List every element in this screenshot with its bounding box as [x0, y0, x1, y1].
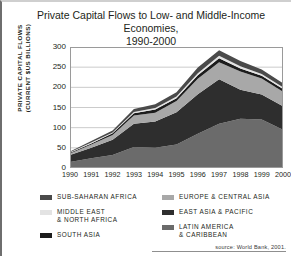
x-axis-tick-1998: 1998	[232, 170, 248, 179]
y-axis-title-line-2: (CURRENT $US BILLIONS)	[24, 10, 32, 126]
legend-item-label: MIDDLE EAST & NORTH AFRICA	[57, 208, 118, 224]
x-axis-tick-1993: 1993	[126, 170, 142, 179]
x-axis-tick-1996: 1996	[190, 170, 206, 179]
legend-column-left: SUB-SAHARAN AFRICAMIDDLE EAST & NORTH AF…	[40, 193, 150, 246]
legend-swatch-icon	[162, 195, 174, 200]
x-axis-tick-1995: 1995	[169, 170, 185, 179]
legend-item[interactable]: EAST ASIA & PACIFIC	[162, 208, 287, 216]
legend-swatch-icon	[40, 195, 52, 200]
y-axis-tick-150: 150	[42, 108, 66, 117]
y-axis-tick-labels: 300250200150100500	[40, 47, 66, 168]
y-axis-tick-300: 300	[42, 47, 66, 56]
x-axis-tick-1991: 1991	[83, 170, 99, 179]
stacked-area-plot	[70, 47, 283, 168]
legend-swatch-icon	[40, 210, 52, 215]
legend-column-right: EUROPE & CENTRAL ASIAEAST ASIA & PACIFIC…	[162, 193, 287, 246]
y-axis-tick-100: 100	[42, 128, 66, 137]
x-axis-tick-1992: 1992	[105, 170, 121, 179]
chart-title-line-1: Private Capital Flows to Low- and Middle…	[37, 9, 265, 34]
y-axis-tick-200: 200	[42, 87, 66, 96]
x-axis-tick-1997: 1997	[211, 170, 227, 179]
legend-swatch-icon	[40, 233, 52, 238]
legend-item[interactable]: LATIN AMERICA & CARIBBEAN	[162, 223, 287, 239]
legend-item[interactable]: MIDDLE EAST & NORTH AFRICA	[40, 208, 150, 224]
x-axis-tick-1990: 1990	[62, 170, 78, 179]
legend-item[interactable]: SUB-SAHARAN AFRICA	[40, 193, 150, 201]
legend-item-label: SOUTH ASIA	[57, 231, 100, 239]
legend-item-label: SUB-SAHARAN AFRICA	[57, 193, 137, 201]
plot-area	[70, 47, 283, 168]
legend-swatch-icon	[162, 225, 174, 230]
legend-item[interactable]: EUROPE & CENTRAL ASIA	[162, 193, 287, 201]
source-note: source: World Bank, 2001.	[152, 244, 286, 252]
chart-figure: Private Capital Flows to Low- and Middle…	[0, 0, 291, 256]
x-axis-tick-1999: 1999	[254, 170, 270, 179]
legend-item-label: LATIN AMERICA & CARIBBEAN	[179, 223, 234, 239]
y-axis-title-line-1: PRIVATE CAPITAL FLOWS	[16, 10, 24, 126]
x-axis-tick-2000: 2000	[275, 170, 291, 179]
legend-item[interactable]: SOUTH ASIA	[40, 231, 150, 239]
y-axis-tick-50: 50	[42, 148, 66, 157]
x-axis-tick-labels: 1990199119921993199419951996199719981999…	[70, 170, 291, 182]
y-axis-tick-250: 250	[42, 67, 66, 76]
legend-item-label: EUROPE & CENTRAL ASIA	[179, 193, 270, 201]
legend-swatch-icon	[162, 210, 174, 215]
y-axis-title: PRIVATE CAPITAL FLOWS (CURRENT $US BILLI…	[16, 10, 32, 126]
x-axis-tick-1994: 1994	[147, 170, 163, 179]
legend-item-label: EAST ASIA & PACIFIC	[179, 208, 253, 216]
